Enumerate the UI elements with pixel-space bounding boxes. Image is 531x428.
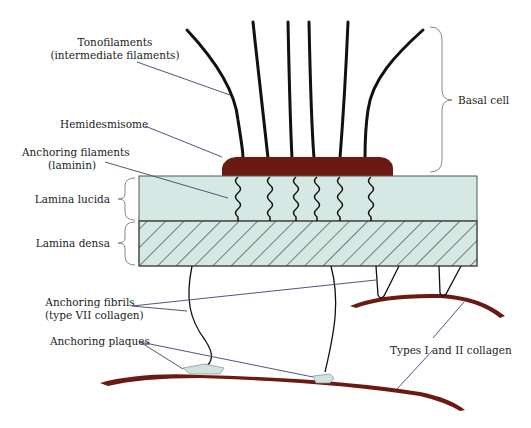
lamina-lucida-brace xyxy=(118,178,135,220)
hemidesmosome xyxy=(222,157,393,176)
anchoring-plaque-right xyxy=(313,374,334,383)
label-collagen: Types I and II collagen xyxy=(390,344,500,357)
collagen-fiber-upper xyxy=(350,294,505,318)
label-tonofilaments-main: Tonofilaments xyxy=(40,36,190,49)
label-anchoring-fibrils-sub: (type VII collagen) xyxy=(45,309,135,322)
label-anchoring-fibrils: Anchoring fibrils (type VII collagen) xyxy=(45,296,135,322)
anchoring-plaque-left xyxy=(183,364,224,374)
label-tonofilaments-sub: (intermediate filaments) xyxy=(40,49,190,62)
diagram-stage: Tonofilaments (intermediate filaments) H… xyxy=(0,0,531,428)
label-anchoring-plaques: Anchoring plaques xyxy=(50,335,138,348)
label-lamina-lucida: Lamina lucida xyxy=(30,193,110,206)
label-anchoring-filaments: Anchoring filaments (laminin) xyxy=(22,146,122,172)
tonofilaments xyxy=(187,22,423,158)
collagen-fiber-lower xyxy=(100,374,465,411)
label-hemidesmisome: Hemidesmisome xyxy=(60,118,145,131)
basal-cell-brace xyxy=(430,27,452,172)
label-anchoring-fibrils-main: Anchoring fibrils xyxy=(45,296,135,309)
label-tonofilaments: Tonofilaments (intermediate filaments) xyxy=(40,36,190,62)
label-anchoring-filaments-sub: (laminin) xyxy=(22,159,122,172)
label-lamina-densa: Lamina densa xyxy=(30,237,110,250)
junction-diagram xyxy=(0,0,531,428)
label-basal-cell: Basal cell xyxy=(458,94,518,107)
label-anchoring-filaments-main: Anchoring filaments xyxy=(22,146,122,159)
lamina-densa-brace xyxy=(118,222,135,265)
lamina-lucida xyxy=(139,176,477,221)
